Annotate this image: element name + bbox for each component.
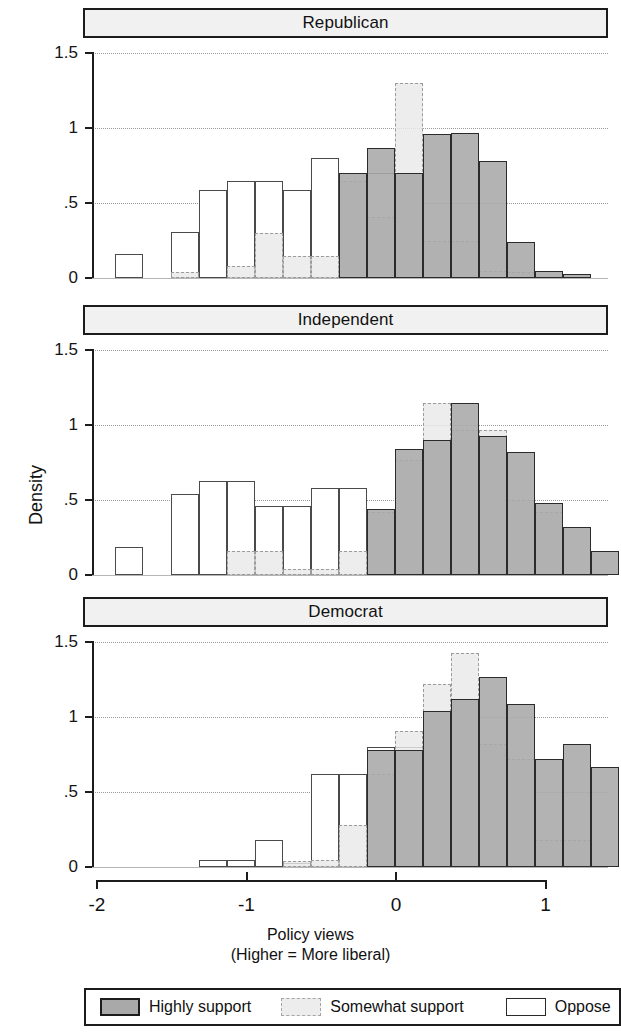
histogram-bar xyxy=(311,488,339,575)
histogram-bar xyxy=(563,744,591,867)
x-tick-label: 0 xyxy=(366,894,426,916)
histogram-bar xyxy=(367,509,395,575)
histogram-bar xyxy=(339,551,367,575)
histogram-bar xyxy=(115,254,143,278)
histogram-bar xyxy=(479,436,507,576)
histogram-bar xyxy=(171,494,199,575)
histogram-bar xyxy=(339,825,367,867)
x-axis-end-cap xyxy=(545,880,547,889)
histogram-bar xyxy=(479,161,507,278)
histogram-bar xyxy=(507,452,535,575)
histogram-bar xyxy=(227,266,255,278)
x-axis-title-line2: (Higher = More liberal) xyxy=(0,945,621,965)
histogram-bar xyxy=(535,503,563,575)
histogram-bar xyxy=(535,759,563,867)
histogram-bar xyxy=(395,449,423,575)
x-axis-end-cap xyxy=(96,880,98,889)
histogram-bar xyxy=(451,403,479,576)
histogram-bar xyxy=(199,860,227,868)
legend-swatch-oppose xyxy=(506,998,546,1016)
histogram-bar xyxy=(591,551,619,575)
histogram-bar xyxy=(591,767,619,868)
legend: Highly supportSomewhat supportOppose xyxy=(84,988,621,1026)
legend-swatch-highly xyxy=(100,998,140,1016)
legend-swatch-somewhat xyxy=(281,998,321,1016)
histogram-bar xyxy=(423,134,451,278)
histogram-bar xyxy=(255,840,283,867)
histogram-bar xyxy=(255,551,283,575)
histogram-bar xyxy=(451,699,479,867)
histogram-bar xyxy=(339,173,367,278)
histogram-bar xyxy=(367,750,395,867)
histogram-bar xyxy=(395,173,423,278)
histogram-bar xyxy=(311,256,339,279)
histogram-bar xyxy=(423,440,451,575)
histogram-bar xyxy=(451,133,479,279)
x-tick-label: -2 xyxy=(67,894,127,916)
legend-item-oppose[interactable]: Oppose xyxy=(506,998,611,1016)
histogram-bar xyxy=(311,860,339,868)
histogram-bar xyxy=(479,677,507,868)
histogram-bar xyxy=(283,506,311,575)
x-axis-title: Policy views (Higher = More liberal) xyxy=(0,925,621,965)
legend-label: Highly support xyxy=(149,998,251,1016)
x-axis-title-line1: Policy views xyxy=(0,925,621,945)
histogram-bar xyxy=(535,271,563,279)
histogram-bar xyxy=(507,704,535,868)
x-tick-mark xyxy=(246,872,248,881)
x-tick-label: -1 xyxy=(217,894,277,916)
legend-label: Somewhat support xyxy=(330,998,463,1016)
histogram-bar xyxy=(227,860,255,868)
histogram-bar xyxy=(199,190,227,279)
x-tick-mark xyxy=(395,872,397,881)
legend-item-somewhat[interactable]: Somewhat support xyxy=(281,998,463,1016)
panel-baseline xyxy=(92,575,608,576)
histogram-bar xyxy=(199,481,227,576)
figure-root: Density Republican1.51.50Independent1.51… xyxy=(0,0,621,1032)
histogram-bar xyxy=(311,774,339,867)
panel-baseline xyxy=(92,278,608,279)
x-axis-line xyxy=(96,880,545,882)
histogram-bar xyxy=(367,148,395,279)
histogram-bar xyxy=(283,256,311,279)
histogram-bar xyxy=(423,711,451,867)
histogram-bar xyxy=(115,547,143,576)
histogram-bar xyxy=(507,242,535,278)
histogram-bar xyxy=(227,181,255,279)
x-tick-label: 1 xyxy=(516,894,576,916)
histogram-bar xyxy=(395,750,423,867)
histogram-bar xyxy=(255,233,283,278)
histogram-bar xyxy=(227,551,255,575)
histogram-bar xyxy=(563,527,591,575)
panel-baseline xyxy=(92,867,608,868)
legend-item-highly[interactable]: Highly support xyxy=(100,998,251,1016)
legend-label: Oppose xyxy=(555,998,611,1016)
